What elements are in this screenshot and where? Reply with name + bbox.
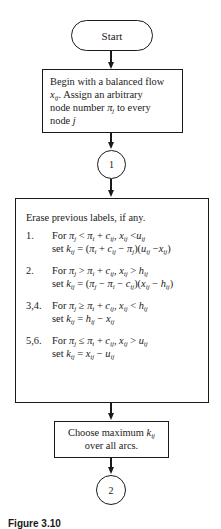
start-label: Start [102,30,123,42]
arrowhead-icon [108,142,114,149]
arrowhead-icon [108,413,114,420]
figure-caption: Figure 3.10 [8,518,61,529]
init-line-3: node number πj to every [50,101,175,114]
start-terminator: Start [71,20,153,51]
connector-1: 1 [97,150,126,179]
choose-line-2: over all arcs. [55,439,168,452]
arrowhead-icon [108,190,114,197]
init-line-4: node j [50,114,175,127]
connector-2: 2 [96,475,126,505]
choose-line-1: Choose maximum kij [55,426,168,439]
connector-1-label: 1 [109,159,114,170]
arrowhead-icon [108,467,114,474]
labels-heading: Erase previous labels, if any. [26,211,202,224]
rule-1: 1.For πj < πi + cij, xij <uij set kij = … [26,229,202,255]
init-process-box: Begin with a balanced flow xij. Assign a… [42,69,183,133]
rule-3-4: 3,4.For πj ≥ πi + cij, xij < hij set kij… [26,299,202,325]
choose-max-box: Choose maximum kij over all arcs. [54,421,169,458]
connector-2-label: 2 [109,485,114,496]
rule-5-6: 5,6.For πj ≤ πi + cij, xij > uij set kij… [26,334,202,360]
labeling-rules-box: Erase previous labels, if any. 1.For πj … [15,198,209,403]
rule-2: 2.For πj > πi + cij, xij > hij set kij =… [26,264,202,290]
init-line-1: Begin with a balanced flow [50,75,175,88]
arrowhead-icon [108,62,114,69]
init-line-2: xij. Assign an arbitrary [50,88,175,101]
